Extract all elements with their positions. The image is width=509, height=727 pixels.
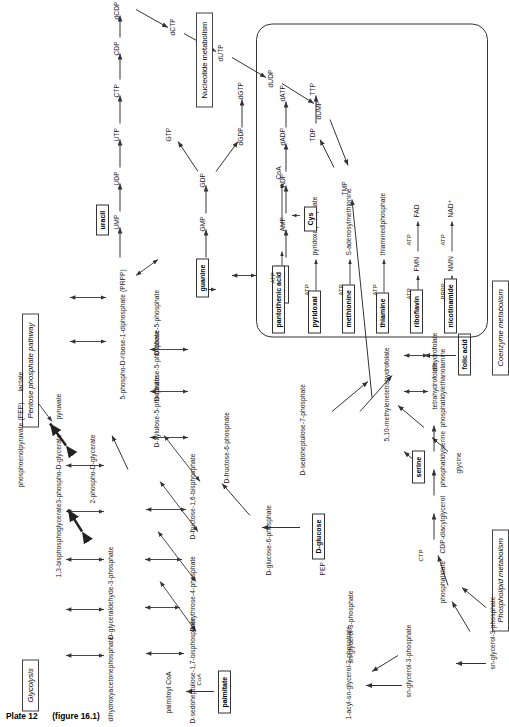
section-label-glycolysis: Glycolysis: [22, 659, 39, 711]
boxed-node-pyridoxal: pyridoxal: [308, 290, 321, 333]
node-dihydrofolate: dihydrofolate: [432, 332, 439, 371]
node-d-fructose-1-6-bisphosphate: D-fructose-1,6-bisphosphate: [190, 453, 197, 539]
node-prpp: 5-phospho-D-ribose-1-diphosphate (PRPP): [120, 269, 127, 399]
boxed-node-cys: Cys: [304, 206, 317, 231]
node-pep-label: PEP: [320, 562, 327, 576]
node-phosphatidylethanolamine: phosphatidylethanolamine: [440, 348, 447, 427]
node-cdp: CDP: [114, 41, 121, 55]
plate-caption-number: Plate 12: [6, 711, 38, 721]
cofactor-ctp: CTP: [418, 549, 424, 561]
node-gtp: GTP: [166, 127, 173, 141]
node-d-sedoheptulose-1-7-bisphosphate: D-sedoheptulose-1,7-bisphosphate: [190, 617, 197, 723]
node-ctp: CTP: [114, 84, 121, 98]
cofactor-coa: CoA: [196, 673, 202, 685]
boxed-node-serine: serine: [412, 450, 425, 483]
plate-caption: Plate 12 (figure 16.1): [6, 711, 100, 721]
node-palmitoyl-coa: palmitoyl CoA: [166, 671, 173, 713]
node-sn-glycerol-3-phosphate-b: sn-glycerol-3-phosphate: [406, 624, 413, 697]
cofactor-prpp-nicotinamide: PRPP: [440, 283, 446, 299]
boxed-node-palmitate: palmitate: [218, 670, 231, 713]
section-label-coenzyme-metabolism: Coenzyme metabolism: [492, 280, 509, 375]
plate-caption-figure: (figure 16.1): [52, 711, 99, 721]
cofactor-atp-pyridoxal: ATP: [304, 284, 310, 295]
node-1-3-bisphosphoglycerate: 1,3-bisphosphoglycerate: [56, 503, 63, 577]
cofactor-atp-nmn: ATP: [440, 234, 446, 245]
node-3-phospho-d-glycerate: 3-phospho-D-glycerate: [56, 434, 63, 503]
node-coa: CoA: [276, 166, 283, 179]
boxed-node-guanine: guanine: [196, 258, 209, 297]
node-s-adenosylmethionine: S-adenosylmethionine: [346, 188, 353, 255]
boxed-node-folic-acid: folic acid: [458, 333, 471, 375]
node-d-sedoheptulose-7-phosphate: D-sedoheptulose-7-phosphate: [300, 384, 307, 475]
section-label-nucleotide-metabolism: Nucleotide metabolism: [196, 12, 213, 107]
node-gmp: GMP: [200, 216, 207, 231]
node-phosphatidylserine: phosphatidylserine: [440, 430, 447, 487]
node-1-acyl-sn-glycerol-3-phosphate: 1-acyl-sn-glycerol-3-phosphate: [346, 625, 353, 719]
node-phosphatidate: phosphatidate: [440, 560, 447, 603]
cofactor-atp-thiamine: ATP: [372, 284, 378, 295]
node-thiaminediphosphate: thiaminediphosphate: [380, 192, 387, 255]
node-d-fructose-6-phosphate: D-fructose-6-phosphate: [224, 412, 231, 483]
node-dihydroxyacetonephosphate: dihydroxyacetonephosphate: [108, 636, 115, 721]
node-udp: UDP: [114, 171, 121, 185]
node-nmn: NMN: [448, 256, 455, 271]
node-nad: NAD⁺: [448, 199, 455, 217]
node-phosphoenolpyruvate: phosphoenolpyruvate (PEP): [18, 402, 25, 487]
node-d-glucose-6-phosphate: D-glucose-6-phosphate: [266, 504, 273, 575]
node-dutp: dUTP: [218, 44, 225, 61]
cofactor-atp-riboflavin: ATP: [406, 288, 412, 299]
cofactor-atp-methionine: ATP: [338, 284, 344, 295]
cofactor-atp-pantothenate: ATP: [270, 272, 276, 283]
node-dcdp: dCDP: [114, 1, 121, 19]
node-sn-glycerol-3-phosphate-c: sn-glycerol-3-phosphate: [490, 596, 497, 669]
boxed-node-d-glucose: D-glucose: [312, 513, 325, 559]
node-d-glyceraldehyde-3-phosphate: D-glyceraldehyde-3-phosphate: [108, 546, 115, 639]
node-glycine: glycine: [456, 452, 463, 473]
node-lactate: lactate: [18, 371, 25, 391]
boxed-node-uracil: uracil: [96, 204, 109, 235]
node-pyruvate: pyruvate: [56, 393, 63, 419]
node-dgdp: dGDP: [238, 127, 245, 145]
node-5-10-methylenetetrahydrofolate: 5,10-methylenetetrahydrofolate: [384, 347, 391, 441]
node-dgtp: dGTP: [238, 81, 245, 99]
boxed-node-thiamine: thiamine: [376, 292, 389, 333]
node-dctp: dCTP: [170, 18, 177, 35]
node-utp: UTP: [114, 128, 121, 142]
node-fmn: FMN: [414, 256, 421, 271]
node-d-ribose-5-phosphate: D-ribose-5-phosphate: [154, 289, 161, 355]
node-ump: UMP: [114, 214, 121, 229]
cofactor-atp-fmn: ATP: [406, 234, 412, 245]
node-gdp: GDP: [200, 172, 207, 187]
node-fad: FAD: [414, 204, 421, 217]
node-cdp-diacylglycerol: CDP-diacylglycerol: [440, 496, 447, 554]
node-2-phospho-d-glycerate: 2-phospho-D-glycerate: [90, 434, 97, 503]
